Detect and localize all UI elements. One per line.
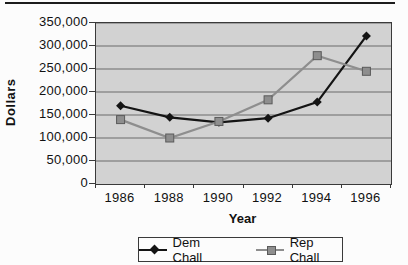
- data-point-marker: [313, 52, 321, 60]
- y-tick-label: 150,000: [0, 107, 88, 121]
- data-point-marker: [166, 134, 174, 142]
- dem-chall-swatch: [139, 245, 167, 255]
- x-tick-mark: [390, 184, 391, 188]
- x-tick-mark: [144, 184, 145, 188]
- y-tick-label: 100,000: [0, 130, 88, 144]
- series-line-0: [121, 36, 367, 122]
- figure-page: Dollars 350,000300,000250,000200,000150,…: [0, 0, 408, 265]
- line-chart: Dollars 350,000300,000250,000200,000150,…: [0, 0, 408, 265]
- x-tick-label: 1994: [291, 190, 341, 205]
- x-tick-label: 1990: [193, 190, 243, 205]
- legend-item-rep-chall: Rep Chall: [256, 235, 342, 265]
- plot-area: [95, 22, 392, 185]
- y-tick-label: 250,000: [0, 61, 88, 75]
- rep-chall-swatch: [256, 245, 284, 255]
- x-tick-mark: [193, 184, 194, 188]
- legend-label-dem-chall: Dem Chall: [173, 235, 229, 265]
- y-tick-label: 0: [0, 176, 88, 190]
- y-tick-label: 50,000: [0, 153, 88, 167]
- x-tick-mark: [292, 184, 293, 188]
- data-point-marker: [116, 101, 125, 110]
- diamond-marker-icon: [149, 245, 159, 255]
- plot-canvas: [96, 23, 391, 184]
- x-tick-mark: [95, 184, 96, 188]
- x-axis-title: Year: [95, 211, 390, 226]
- square-marker-icon: [267, 246, 276, 255]
- x-tick-label: 1988: [144, 190, 194, 205]
- data-point-marker: [117, 116, 125, 124]
- x-tick-mark: [341, 184, 342, 188]
- data-point-marker: [215, 117, 223, 125]
- data-point-marker: [264, 96, 272, 104]
- data-point-marker: [165, 113, 174, 122]
- y-tick-label: 350,000: [0, 15, 88, 29]
- legend: Dem Chall Rep Chall: [138, 237, 343, 262]
- legend-item-dem-chall: Dem Chall: [139, 235, 228, 265]
- x-tick-label: 1992: [242, 190, 292, 205]
- y-tick-label: 300,000: [0, 38, 88, 52]
- legend-label-rep-chall: Rep Chall: [290, 235, 342, 265]
- x-tick-label: 1986: [95, 190, 145, 205]
- x-tick-label: 1996: [340, 190, 390, 205]
- data-point-marker: [362, 67, 370, 75]
- series-line-1: [121, 56, 367, 138]
- x-tick-mark: [243, 184, 244, 188]
- y-tick-label: 200,000: [0, 84, 88, 98]
